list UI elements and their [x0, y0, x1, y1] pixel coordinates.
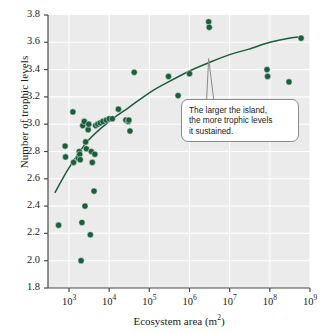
data-point [131, 69, 137, 75]
y-axis-tick-label: 2.0 [6, 254, 40, 265]
y-axis-tick-label: 3.2 [6, 90, 40, 101]
data-point [165, 73, 171, 79]
data-point [92, 151, 98, 157]
data-point [62, 143, 68, 149]
x-axis-tick-label: 108 [255, 293, 285, 307]
data-point [109, 116, 115, 122]
callout-line-3: it sustained. [189, 126, 292, 136]
x-axis-tick-label: 109 [295, 293, 325, 307]
callout-line-1: The larger the island, [189, 105, 292, 115]
data-point [83, 139, 89, 145]
data-point [79, 219, 85, 225]
data-point [175, 92, 181, 98]
data-point [264, 67, 270, 73]
data-point [126, 117, 132, 123]
data-point [186, 71, 192, 77]
data-point [206, 24, 212, 30]
y-axis-tick-label: 3.0 [6, 117, 40, 128]
y-axis-tick-label: 3.4 [6, 63, 40, 74]
figure: Number of trophic levels Ecosystem area … [0, 0, 332, 333]
data-point [87, 232, 93, 238]
y-axis-tick-label: 3.6 [6, 35, 40, 46]
x-axis-tick-label: 105 [134, 293, 164, 307]
data-point [82, 203, 88, 209]
x-axis-tick-label: 106 [175, 293, 205, 307]
data-point [62, 154, 68, 160]
data-point [127, 128, 133, 134]
data-point [115, 106, 121, 112]
data-point [55, 222, 61, 228]
x-axis-tick-label: 103 [54, 293, 84, 307]
data-point [70, 109, 76, 115]
callout-line-2: the more trophic levels [189, 115, 292, 125]
data-point [77, 157, 83, 163]
y-axis-tick-label: 2.2 [6, 226, 40, 237]
data-point [265, 73, 271, 79]
y-axis-tick-label: 2.8 [6, 145, 40, 156]
island-size-callout: The larger the island, the more trophic … [181, 99, 299, 142]
scatter-plot [0, 0, 332, 333]
y-axis-tick-label: 3.8 [6, 8, 40, 19]
y-axis-tick-label: 2.6 [6, 172, 40, 183]
y-axis-tick-label: 2.4 [6, 199, 40, 210]
y-axis-label: Number of trophic levels [18, 32, 30, 192]
data-point [89, 159, 95, 165]
data-point [286, 79, 292, 85]
data-point [298, 35, 304, 41]
data-point [86, 121, 92, 127]
x-axis-tick-label: 104 [94, 293, 124, 307]
data-point [91, 188, 97, 194]
x-axis-tick-label: 107 [215, 293, 245, 307]
data-point [78, 258, 84, 264]
x-axis-label: Ecosystem area (m2) [48, 313, 310, 327]
y-axis-tick-label: 1.8 [6, 281, 40, 292]
